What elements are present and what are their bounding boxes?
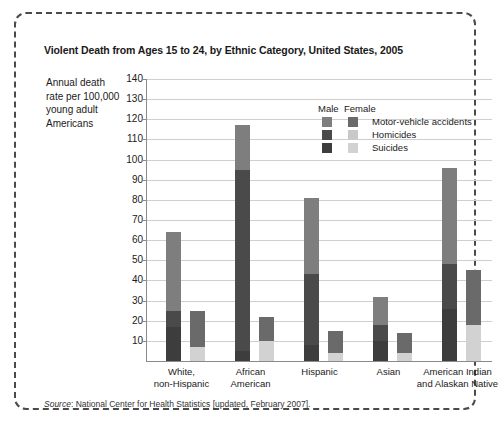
- y-tick-label: 110: [127, 134, 143, 144]
- bar-male: [442, 168, 457, 361]
- legend-swatch-female: [348, 143, 358, 153]
- y-tick-label: 140: [126, 74, 143, 84]
- chart-frame: Violent Death from Ages 15 to 24, by Eth…: [14, 12, 476, 410]
- y-tick-label: 90: [132, 175, 143, 185]
- chart-inner: Violent Death from Ages 15 to 24, by Eth…: [30, 28, 464, 398]
- bar-female: [397, 333, 412, 361]
- bar-female: [466, 270, 481, 361]
- x-axis-category-label: Asian: [377, 366, 401, 378]
- bar-female: [190, 311, 205, 361]
- y-tick-label: 70: [132, 215, 143, 225]
- x-axis-category-label: White,non-Hispanic: [154, 366, 209, 390]
- bar-female: [259, 317, 274, 361]
- bar-segment-male-homicides: [235, 170, 250, 351]
- y-tick-label: 120: [126, 114, 143, 124]
- bar-group: White,non-Hispanic: [147, 79, 216, 361]
- bar-segment-male-homicides: [442, 264, 457, 308]
- source-text: : National Center for Health Statistics …: [71, 399, 311, 409]
- x-axis-category-line: American: [230, 378, 270, 390]
- bar-male: [304, 198, 319, 361]
- bar-segment-female-motor-vehicle: [397, 333, 412, 353]
- bar-segment-male-suicides: [304, 345, 319, 361]
- x-axis-category-line: African: [230, 366, 270, 378]
- legend-label: Suicides: [372, 142, 408, 153]
- bar-segment-female-suicides: [259, 341, 274, 361]
- bar-male: [235, 125, 250, 361]
- y-axis-label: Annual death rate per 100,000 young adul…: [46, 76, 124, 130]
- y-tick-label: 50: [132, 255, 143, 265]
- y-tick-label: 40: [132, 275, 143, 285]
- legend-female-header: Female: [344, 103, 376, 114]
- bar-segment-male-suicides: [373, 341, 388, 361]
- y-tick-label: 80: [132, 195, 143, 205]
- legend-swatch-male: [322, 130, 332, 140]
- bar-group: AfricanAmerican: [216, 79, 285, 361]
- x-axis-category-line: and Alaskan Native: [417, 378, 498, 390]
- bar-segment-male-motor-vehicle: [235, 125, 250, 169]
- bar-segment-male-motor-vehicle: [304, 198, 319, 275]
- x-axis-category-label: AfricanAmerican: [230, 366, 270, 390]
- x-axis-category-line: non-Hispanic: [154, 378, 209, 390]
- bar-segment-male-motor-vehicle: [166, 232, 181, 311]
- bar-segment-male-homicides: [304, 274, 319, 344]
- legend-male-header: Male: [318, 103, 339, 114]
- y-tick-label: 130: [126, 94, 143, 104]
- x-axis-category-line: White,: [154, 366, 209, 378]
- x-axis-category-label: Hispanic: [301, 366, 337, 378]
- bar-segment-female-motor-vehicle: [466, 270, 481, 324]
- bar-segment-female-suicides: [328, 353, 343, 361]
- bar-segment-female-suicides: [466, 325, 481, 361]
- bar-male: [373, 297, 388, 361]
- bar-segment-female-motor-vehicle: [328, 331, 343, 353]
- y-tick-label: 30: [132, 296, 143, 306]
- bar-segment-female-suicides: [397, 353, 412, 361]
- y-tick-label: 60: [132, 235, 143, 245]
- source-note: Source: National Center for Health Stati…: [44, 399, 310, 409]
- legend-label: Homicides: [372, 129, 416, 140]
- source-prefix: Source: [44, 399, 71, 409]
- bar-segment-female-suicides: [190, 347, 205, 361]
- bar-segment-male-motor-vehicle: [442, 168, 457, 265]
- bar-group: Hispanic: [285, 79, 354, 361]
- legend-swatch-female: [348, 117, 358, 127]
- bar-segment-male-suicides: [166, 327, 181, 361]
- x-axis-category-label: American Indianand Alaskan Native: [417, 366, 498, 390]
- bar-segment-male-motor-vehicle: [373, 297, 388, 325]
- x-axis-category-line: American Indian: [417, 366, 498, 378]
- bar-segment-male-suicides: [442, 309, 457, 361]
- x-axis-category-line: Hispanic: [301, 366, 337, 378]
- bar-female: [328, 331, 343, 361]
- bar-segment-male-homicides: [166, 311, 181, 327]
- chart-title: Violent Death from Ages 15 to 24, by Eth…: [44, 44, 403, 56]
- legend-label: Motor-vehicle accidents: [372, 116, 472, 127]
- bar-segment-male-homicides: [373, 325, 388, 341]
- bar-segment-female-motor-vehicle: [190, 311, 205, 347]
- bar-segment-female-motor-vehicle: [259, 317, 274, 341]
- legend-swatch-male: [322, 117, 332, 127]
- bar-segment-male-suicides: [235, 351, 250, 361]
- x-axis-category-line: Asian: [377, 366, 401, 378]
- legend-swatch-male: [322, 143, 332, 153]
- bar-male: [166, 232, 181, 361]
- y-tick-label: 20: [132, 316, 143, 326]
- legend-swatch-female: [348, 130, 358, 140]
- y-tick-label: 100: [126, 155, 143, 165]
- y-tick-label: 10: [132, 336, 143, 346]
